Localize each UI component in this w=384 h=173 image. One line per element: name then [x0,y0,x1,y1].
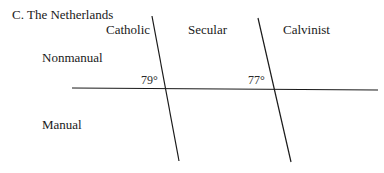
horizontal-class-divider [72,88,378,90]
row-label-nonmanual: Nonmanual [42,51,103,64]
row-label-manual: Manual [42,118,82,131]
angle-label-77: 77° [248,74,265,86]
column-label-calvinist: Calvinist [283,23,330,36]
secular-calvinist-divider [258,18,291,162]
column-label-secular: Secular [188,23,227,36]
figure-title: C. The Netherlands [12,8,113,21]
column-label-catholic: Catholic [106,23,150,36]
angle-label-79: 79° [141,74,158,86]
